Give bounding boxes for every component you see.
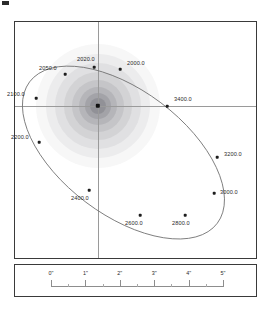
scale-tick-label: 5" [221,270,226,276]
epoch-marker-dot [213,192,216,195]
scale-tick-major [154,280,155,287]
epoch-marker-dot [119,68,122,71]
scale-tick-major [120,280,121,287]
epoch-label: 2000.0 [127,60,145,66]
scale-tick-minor [68,284,69,288]
epoch-marker-dot [64,73,67,76]
scale-tick-major [223,280,224,287]
scale-tick-minor [206,284,207,288]
epoch-label: 3200.0 [224,151,242,157]
corner-mark [2,1,9,5]
scale-tick-label: 4" [186,270,191,276]
scale-tick-minor [137,284,138,288]
epoch-label: 2800.0 [172,220,190,226]
epoch-label: 2020.0 [77,56,95,62]
epoch-label: 2100.0 [7,91,25,97]
orbit-figure: 2000.02020.02050.02100.02200.02400.02600… [0,0,272,315]
scale-tick-label: 2" [117,270,122,276]
scale-tick-minor [103,284,104,288]
orbit-plot-panel: 2000.02020.02050.02100.02200.02400.02600… [14,21,257,259]
scale-tick-major [85,280,86,287]
epoch-marker-dot [38,141,41,144]
epoch-label: 3000.0 [220,189,238,195]
epoch-marker-dot [93,66,96,69]
scale-tick-label: 3" [152,270,157,276]
scale-tick-label: 1" [83,270,88,276]
epoch-label: 3400.0 [174,96,192,102]
scale-tick-label: 0" [49,270,54,276]
epoch-marker-dot [216,156,219,159]
scale-tick-major [189,280,190,287]
epoch-marker-dot [166,105,169,108]
epoch-marker-dot [35,97,38,100]
scale-tick-major [51,280,52,287]
epoch-label: 2050.0 [39,65,57,71]
epoch-label: 2200.0 [11,134,29,140]
scale-tick-minor [171,284,172,288]
scale-bar-panel: 0"1"2"3"4"5" [14,264,257,297]
epoch-label: 2600.0 [125,220,143,226]
epoch-marker-dot [184,214,187,217]
epoch-marker-dot [139,214,142,217]
epoch-label: 2400.0 [71,195,89,201]
epoch-marker-dot [88,189,91,192]
